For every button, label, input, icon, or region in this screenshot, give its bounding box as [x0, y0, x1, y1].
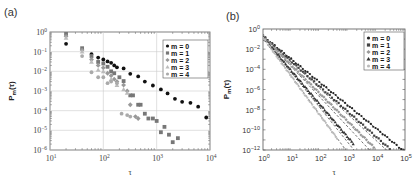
marker-circle	[316, 111, 318, 113]
svg-text:10−4: 10−4	[33, 106, 47, 116]
marker-circle	[304, 70, 306, 72]
svg-text:10−2: 10−2	[245, 44, 260, 54]
marker-circle	[274, 53, 276, 55]
marker-circle	[332, 92, 334, 94]
marker-square	[143, 112, 147, 116]
marker-circle	[106, 59, 110, 63]
marker-square	[309, 77, 311, 79]
marker-square	[366, 129, 368, 131]
marker-circle	[353, 110, 355, 112]
marker-square	[311, 78, 313, 80]
marker-circle	[396, 144, 398, 146]
marker-square	[171, 140, 175, 144]
svg-text:103: 103	[152, 153, 163, 163]
x-axis-title: τ	[332, 168, 336, 177]
marker-square	[117, 75, 121, 79]
marker-circle	[302, 68, 304, 70]
marker-circle	[344, 102, 346, 104]
marker-circle	[306, 97, 308, 99]
marker-square	[166, 51, 169, 54]
marker-square	[360, 122, 362, 124]
marker-circle	[143, 80, 147, 84]
marker-circle	[293, 78, 295, 80]
marker-square	[167, 133, 171, 137]
marker-circle	[323, 85, 325, 87]
svg-text:10−2: 10−2	[33, 66, 47, 76]
marker-square	[346, 110, 348, 112]
legend-entry: m = 2	[372, 49, 390, 56]
marker-circle	[335, 94, 337, 96]
marker-square	[375, 136, 377, 138]
marker-circle	[377, 128, 379, 130]
marker-square	[326, 92, 328, 94]
y-axis-title: Pm(τ)	[7, 81, 17, 101]
svg-text:10−1: 10−1	[33, 47, 47, 57]
marker-circle	[311, 76, 313, 78]
marker-circle	[315, 108, 317, 110]
marker-square	[163, 125, 167, 129]
marker-circle	[393, 142, 395, 144]
marker-square	[151, 117, 155, 121]
marker-circle	[266, 41, 268, 43]
marker-circle	[296, 83, 298, 85]
marker-circle	[90, 70, 94, 74]
marker-circle	[96, 56, 100, 60]
marker-circle	[298, 85, 300, 87]
marker-circle	[330, 129, 332, 131]
marker-circle	[313, 77, 315, 79]
marker-square	[155, 119, 159, 123]
svg-text:10−3: 10−3	[33, 86, 47, 96]
marker-circle	[159, 88, 163, 92]
marker-circle	[283, 65, 285, 67]
marker-square	[382, 143, 384, 145]
marker-circle	[400, 148, 402, 150]
marker-square	[286, 56, 288, 58]
marker-square	[362, 124, 364, 126]
marker-square	[391, 150, 393, 152]
marker-circle	[166, 44, 169, 47]
marker-square	[364, 126, 366, 128]
marker-square	[367, 43, 370, 46]
svg-text:10−10: 10−10	[242, 125, 260, 135]
marker-square	[280, 50, 282, 52]
svg-text:10−8: 10−8	[245, 105, 260, 115]
marker-square	[358, 121, 360, 123]
marker-square	[295, 64, 297, 66]
marker-circle	[325, 86, 327, 88]
marker-square	[131, 93, 135, 97]
marker-circle	[351, 107, 353, 109]
marker-circle	[325, 122, 327, 124]
marker-circle	[321, 84, 323, 86]
legend-entry: m = 2	[171, 57, 189, 64]
svg-text:10−4: 10−4	[245, 64, 260, 74]
marker-circle	[372, 126, 374, 128]
legend-entry: m = 0	[372, 35, 390, 42]
marker-circle	[337, 97, 339, 99]
marker-square	[329, 94, 331, 96]
marker-circle	[367, 36, 370, 39]
marker-square	[333, 99, 335, 101]
marker-square	[378, 137, 380, 139]
marker-circle	[166, 72, 169, 75]
marker-circle	[358, 113, 360, 115]
figure-canvas: 10010−110−210−310−410−510−6101102103104τ…	[0, 0, 417, 185]
marker-circle	[271, 48, 273, 50]
svg-text:10−6: 10−6	[245, 85, 260, 95]
marker-square	[302, 71, 304, 73]
marker-circle	[166, 92, 170, 96]
marker-square	[324, 91, 326, 93]
marker-square	[289, 58, 291, 60]
marker-square	[322, 88, 324, 90]
marker-circle	[189, 101, 193, 105]
marker-square	[380, 140, 382, 142]
marker-circle	[136, 75, 140, 79]
marker-circle	[323, 120, 325, 122]
svg-text:102: 102	[99, 153, 110, 163]
marker-square	[355, 118, 357, 120]
marker-circle	[365, 120, 367, 122]
marker-circle	[384, 134, 386, 136]
legend-entry: m = 3	[171, 64, 189, 71]
marker-square	[344, 108, 346, 110]
marker-square	[353, 116, 355, 118]
marker-circle	[389, 139, 391, 141]
